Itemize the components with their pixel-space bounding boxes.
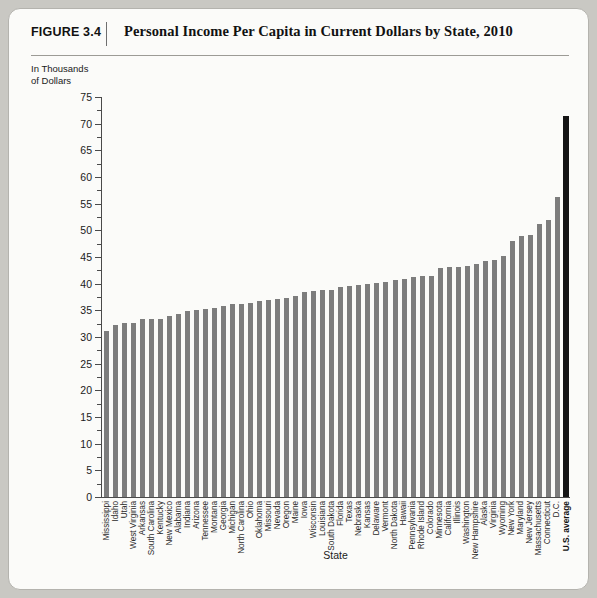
y-tick-minor <box>97 270 101 271</box>
bar-column: North Dakota <box>391 97 400 497</box>
y-tick-minor <box>97 297 101 298</box>
bar <box>438 268 443 497</box>
y-tick-minor <box>97 457 101 458</box>
page-root: FIGURE 3.4 Personal Income Per Capita in… <box>0 0 597 598</box>
x-tick-label: West Virginia <box>129 501 137 549</box>
bar <box>501 256 506 497</box>
x-tick-label: Hawaii <box>400 501 408 526</box>
x-tick-label: Arizona <box>193 501 201 529</box>
bar-column: Nevada <box>273 97 282 497</box>
bar-column: Maine <box>291 97 300 497</box>
x-tick-label: Nevada <box>274 501 282 529</box>
bar-column: Montana <box>210 97 219 497</box>
x-tick-label: South Carolina <box>147 501 155 555</box>
x-tick-label: Kansas <box>364 501 372 528</box>
x-tick-label: Louisiana <box>319 501 327 536</box>
y-tick-minor <box>97 430 101 431</box>
bar-column: North Carolina <box>237 97 246 497</box>
x-tick-label: Alabama <box>175 501 183 533</box>
bar-column: Louisiana <box>318 97 327 497</box>
bar <box>447 267 452 497</box>
y-tick-minor <box>97 404 101 405</box>
bar-column: Indiana <box>183 97 192 497</box>
bar-column: Rhode Island <box>418 97 427 497</box>
y-tick-label: 75 <box>80 91 92 103</box>
y-tick-label: 30 <box>80 331 92 343</box>
bar <box>356 285 361 497</box>
bar <box>347 286 352 497</box>
bar-column: Massachusetts <box>535 97 544 497</box>
x-tick-label: Kentucky <box>156 501 164 535</box>
bar <box>275 299 280 497</box>
bar <box>456 267 461 497</box>
plot-region: 051015202530354045505560657075 Mississip… <box>101 97 570 497</box>
bar <box>203 309 208 497</box>
y-tick-label: 0 <box>86 491 92 503</box>
y-tick-major <box>95 177 101 178</box>
bar-column: Georgia <box>219 97 228 497</box>
bar-column: Vermont <box>381 97 390 497</box>
bar <box>429 276 434 497</box>
bar-us-average <box>563 116 569 497</box>
bar-column: New Mexico <box>165 97 174 497</box>
bar <box>149 319 154 497</box>
bar <box>546 220 551 497</box>
bar-column: Ohio <box>246 97 255 497</box>
bar <box>293 296 298 497</box>
bar-column: Oregon <box>282 97 291 497</box>
bar <box>483 261 488 497</box>
x-tick-label: Idaho <box>111 501 119 522</box>
bar-column: California <box>445 97 454 497</box>
bar <box>383 282 388 497</box>
bar <box>176 314 181 497</box>
y-tick-label: 25 <box>80 358 92 370</box>
x-tick-label: North Dakota <box>391 501 399 549</box>
bar-column: New Hampshire <box>472 97 481 497</box>
bar <box>510 241 515 497</box>
x-tick-label: Pennsylvania <box>409 501 417 550</box>
bar-column: Delaware <box>372 97 381 497</box>
y-tick-major <box>95 390 101 391</box>
bar <box>465 266 470 497</box>
bar <box>492 260 497 497</box>
y-tick-label: 65 <box>80 144 92 156</box>
bar-column: Minnesota <box>436 97 445 497</box>
bar <box>320 290 325 497</box>
y-tick-major <box>95 150 101 151</box>
x-tick-label: Oregon <box>283 501 291 528</box>
bar <box>365 284 370 497</box>
bar-column: Hawaii <box>400 97 409 497</box>
x-tick-label: U.S. average <box>562 501 570 551</box>
x-tick-label: Iowa <box>301 501 309 518</box>
bar-column: New Jersey <box>526 97 535 497</box>
bar-column: Connecticut <box>544 97 553 497</box>
x-tick-label: Georgia <box>220 501 228 530</box>
y-tick-label: 45 <box>80 251 92 263</box>
bar <box>248 303 253 497</box>
bar <box>194 310 199 497</box>
bar-column: Arizona <box>192 97 201 497</box>
bar <box>338 287 343 497</box>
bar <box>284 298 289 497</box>
y-tick-major <box>95 97 101 98</box>
bar-column: Wisconsin <box>309 97 318 497</box>
x-tick-label: North Carolina <box>238 501 246 554</box>
x-axis-title: State <box>101 549 570 561</box>
y-tick-minor <box>97 484 101 485</box>
bar-column: West Virginia <box>129 97 138 497</box>
y-tick-major <box>95 204 101 205</box>
bar <box>140 319 145 497</box>
bar-series: MississippiIdahoUtahWest VirginiaArkansa… <box>102 97 571 497</box>
bar-column: D.C. <box>553 97 562 497</box>
bar <box>167 316 172 497</box>
y-tick-label: 5 <box>86 464 92 476</box>
y-tick-label: 20 <box>80 384 92 396</box>
bar-column: Arkansas <box>138 97 147 497</box>
bar <box>528 235 533 497</box>
y-tick-major <box>95 470 101 471</box>
y-tick-label: 40 <box>80 278 92 290</box>
bar-column: Pennsylvania <box>409 97 418 497</box>
bar <box>122 323 127 497</box>
y-tick-major <box>95 284 101 285</box>
y-tick-label: 10 <box>80 438 92 450</box>
